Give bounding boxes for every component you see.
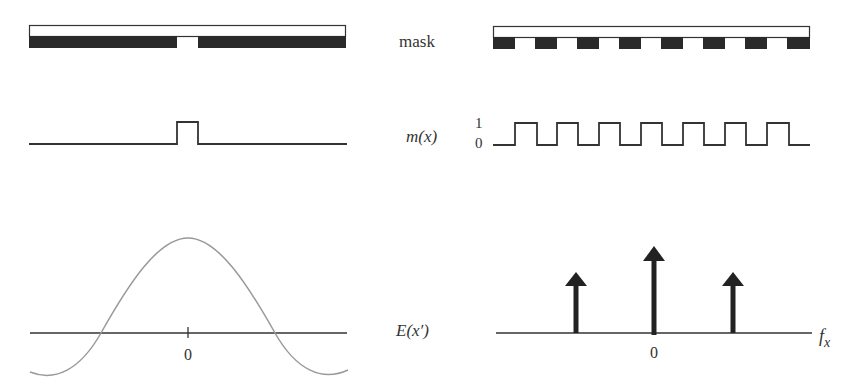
transmission-label: m(x) xyxy=(406,128,437,145)
grating-mask xyxy=(493,27,810,50)
impulse-order-minus-one xyxy=(565,272,587,333)
level-zero-tick: 0 xyxy=(475,136,483,151)
single-pulse-transmission xyxy=(29,122,347,144)
left-origin-label: 0 xyxy=(184,347,192,363)
right-origin-label: 0 xyxy=(650,345,658,361)
square-wave-transmission xyxy=(493,123,810,145)
frequency-axis-label: fx xyxy=(819,327,830,350)
figure-canvas xyxy=(0,0,868,390)
frequency-axis-subscript: x xyxy=(824,335,830,350)
impulse-order-zero xyxy=(643,246,665,335)
field-label: E(x′) xyxy=(396,322,429,339)
level-one-tick: 1 xyxy=(475,116,483,131)
mask-label: mask xyxy=(399,33,435,50)
impulse-order-plus-one xyxy=(722,272,744,333)
single-slit-mask xyxy=(29,26,346,49)
